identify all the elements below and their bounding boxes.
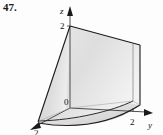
z-axis-label: z: [59, 6, 64, 16]
figure-container: 47.: [0, 0, 163, 135]
y-axis-label: y: [147, 120, 152, 130]
solid-region-diagram: z 2 y 2 2 0: [0, 0, 163, 135]
origin-label: 0: [64, 97, 69, 107]
x-axis-tick-label: 2: [34, 128, 39, 135]
y-axis-tick-label: 2: [130, 117, 135, 127]
z-axis-tick-label: 2: [60, 21, 65, 31]
